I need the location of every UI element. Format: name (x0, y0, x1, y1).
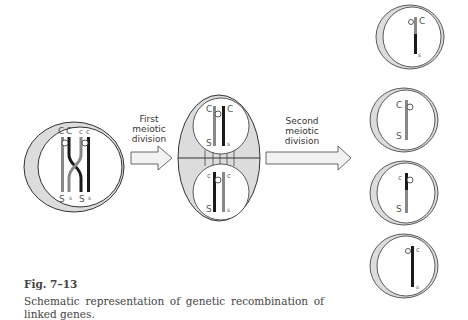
gene-label: C (419, 16, 425, 26)
arrow-label: First (140, 114, 159, 124)
gene-label: C (206, 104, 212, 114)
gene-label: C (58, 126, 64, 136)
arrow-label: Second (285, 116, 318, 126)
parent-cell: C C c c S s S s (24, 122, 124, 212)
arrow-label: division (132, 134, 166, 144)
centromere (82, 140, 88, 146)
centromere (62, 140, 68, 146)
gene-label: s (418, 51, 421, 58)
gene-label: S (396, 131, 402, 141)
gene-label: c (207, 172, 211, 180)
top-nucleus (193, 98, 249, 154)
gene-label: S (59, 194, 65, 204)
gamete-2: C S (370, 88, 438, 152)
gene-label: c (79, 128, 83, 136)
gene-label: c (398, 174, 402, 182)
gene-label: S (206, 204, 212, 214)
gene-label: s (69, 194, 72, 201)
gene-label: c (227, 172, 231, 180)
gene-label: S (79, 194, 85, 204)
gamete-3: c S (370, 161, 438, 225)
figure-caption: Fig. 7–13 Schematic representation of ge… (24, 278, 324, 320)
gene-label: C (396, 100, 402, 110)
gene-label: c (86, 128, 90, 136)
gene-label: s (227, 206, 230, 213)
figure-number: Fig. 7–13 (24, 278, 324, 290)
dividing-cell: C C S s c c S s (178, 95, 260, 221)
gene-label: S (396, 204, 402, 214)
arrow-label: meiotic (132, 124, 165, 134)
gamete-1: C s (376, 5, 444, 69)
gene-label: S (206, 138, 212, 148)
arrow-label: meiotic (285, 126, 318, 136)
bottom-nucleus (193, 164, 249, 220)
second-division-arrow: Second meiotic division (266, 116, 351, 170)
first-division-arrow: First meiotic division (131, 114, 172, 170)
gamete-4: c s (370, 234, 438, 298)
arrow-label: division (285, 136, 319, 146)
gene-label: s (416, 283, 419, 290)
gene-label: s (227, 140, 230, 147)
gene-label: c (416, 246, 420, 254)
gene-label: C (227, 104, 233, 114)
recombination-diagram: C C c c S s S s First meiotic division C… (0, 0, 468, 320)
figure-caption-text: Schematic representation of genetic reco… (24, 295, 324, 320)
gene-label: s (88, 194, 91, 201)
gene-label: C (66, 126, 72, 136)
